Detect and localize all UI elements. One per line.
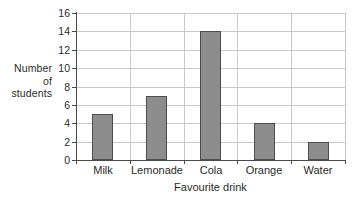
x-category-label-water: Water: [291, 164, 345, 177]
gridline-x-2: [184, 13, 185, 160]
y-tick-label-12: 12: [50, 45, 70, 56]
y-tick-mark-12: [72, 50, 76, 51]
y-axis-title-line-1: Number: [0, 62, 52, 75]
gridline-x-1: [130, 13, 131, 160]
y-tick-label-10: 10: [50, 63, 70, 74]
y-axis-title: Number of students: [0, 62, 52, 100]
x-tick-mark-5: [345, 161, 346, 164]
y-tick-mark-8: [72, 87, 76, 88]
y-axis-line: [76, 12, 77, 161]
bar-milk: [92, 114, 113, 160]
bar-orange: [254, 123, 275, 160]
y-tick-mark-6: [72, 105, 76, 106]
y-tick-mark-14: [72, 31, 76, 32]
y-tick-label-14: 14: [50, 26, 70, 37]
y-tick-label-2: 2: [50, 137, 70, 148]
gridline-x-5: [345, 13, 346, 160]
y-axis-title-line-3: students: [0, 87, 52, 100]
x-axis-title: Favourite drink: [76, 181, 345, 194]
gridline-x-3: [237, 13, 238, 160]
plot-area: [76, 13, 345, 160]
y-tick-label-0: 0: [50, 155, 70, 166]
y-tick-mark-16: [72, 13, 76, 14]
y-tick-mark-2: [72, 142, 76, 143]
x-category-label-orange: Orange: [237, 164, 291, 177]
y-axis-title-line-2: of: [0, 75, 52, 88]
x-category-label-lemonade: Lemonade: [130, 164, 184, 177]
y-tick-label-16: 16: [50, 8, 70, 19]
gridline-x-4: [291, 13, 292, 160]
x-axis-line: [75, 160, 346, 161]
y-tick-label-4: 4: [50, 118, 70, 129]
y-tick-label-6: 6: [50, 100, 70, 111]
y-tick-mark-4: [72, 123, 76, 124]
bar-chart: Number of students 0246810121416 MilkLem…: [0, 0, 364, 201]
bar-cola: [200, 31, 221, 160]
y-tick-mark-10: [72, 68, 76, 69]
bar-water: [308, 142, 329, 160]
gridline-y-16: [76, 13, 345, 14]
x-category-label-cola: Cola: [184, 164, 238, 177]
x-category-label-milk: Milk: [76, 164, 130, 177]
bar-lemonade: [146, 96, 167, 160]
y-tick-label-8: 8: [50, 82, 70, 93]
